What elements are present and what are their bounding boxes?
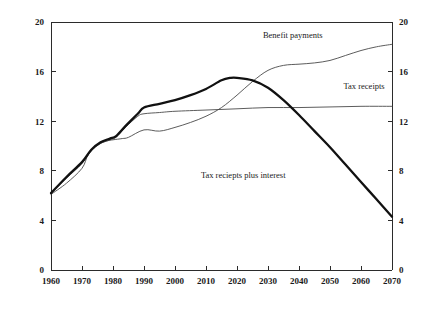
x-tick-label: 2030 <box>259 276 278 286</box>
series-annotation-2: Tax receipts <box>344 81 385 91</box>
y-tick-label-left: 4 <box>40 216 45 226</box>
y-tick-label-left: 0 <box>40 265 45 275</box>
y-tick-label-left: 16 <box>35 67 45 77</box>
x-tick-label: 2040 <box>290 276 309 286</box>
y-tick-label-right: 12 <box>399 117 409 127</box>
y-tick-label-right: 8 <box>399 166 404 176</box>
y-tick-label-right: 0 <box>399 265 404 275</box>
x-tick-label: 2050 <box>321 276 340 286</box>
x-tick-label: 1980 <box>104 276 123 286</box>
x-tick-label: 2060 <box>352 276 371 286</box>
series-annotation-3: Tax reciepts plus interest <box>201 170 286 180</box>
y-tick-label-right: 4 <box>399 216 404 226</box>
series-annotations-group: Benefit paymentsTax receiptsTax reciepts… <box>201 30 385 180</box>
x-tick-label: 1990 <box>135 276 154 286</box>
y-tick-label-left: 12 <box>35 117 45 127</box>
x-tick-label: 1960 <box>42 276 61 286</box>
chart-container: 1960197019801990200020102020203020402050… <box>0 0 438 309</box>
x-tick-label: 2000 <box>166 276 185 286</box>
y-tick-label-left: 8 <box>40 166 45 176</box>
series-line-3 <box>51 77 392 216</box>
series-annotation-1: Benefit payments <box>263 30 323 40</box>
x-tick-label: 2070 <box>383 276 402 286</box>
series-group <box>51 44 392 216</box>
y-tick-label-right: 20 <box>399 17 409 27</box>
x-tick-label: 2020 <box>228 276 247 286</box>
y-tick-label-left: 20 <box>35 17 45 27</box>
x-tick-label: 2010 <box>197 276 216 286</box>
x-tick-label: 1970 <box>73 276 92 286</box>
axes-group <box>51 22 392 270</box>
chart-canvas: 1960197019801990200020102020203020402050… <box>0 0 438 309</box>
y-tick-label-right: 16 <box>399 67 409 77</box>
